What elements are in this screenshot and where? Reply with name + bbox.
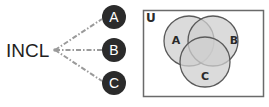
connectors: [53, 19, 102, 81]
connector-c: [55, 50, 102, 81]
set-label-c: C: [201, 70, 209, 83]
root-label: INCL: [6, 40, 49, 61]
set-label-b: B: [230, 34, 238, 47]
branch-badge-c: C: [102, 71, 126, 95]
branch-badge-a: A: [102, 5, 126, 29]
connector-a: [55, 19, 102, 50]
branch-label-c: C: [109, 75, 119, 91]
universe-label: U: [146, 11, 156, 25]
branch-label-b: B: [109, 42, 118, 58]
connector-origin-dot: [53, 48, 57, 52]
inclusion-diagram: INCL A B C U A B C: [0, 0, 269, 107]
branch-label-a: A: [109, 9, 119, 25]
branch-badge-b: B: [102, 38, 126, 62]
set-label-a: A: [172, 34, 181, 47]
